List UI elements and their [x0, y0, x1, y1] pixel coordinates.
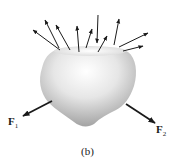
force-label-f2: F2: [156, 123, 166, 138]
traction-arrow-icon: [123, 46, 143, 51]
force-arrow-icon: [23, 101, 52, 116]
traction-arrow-icon: [97, 15, 98, 43]
traction-arrow-icon: [86, 29, 92, 48]
traction-arrow-icon: [33, 30, 60, 50]
force-arrow-icon: [126, 104, 155, 123]
traction-arrow-icon: [114, 19, 119, 45]
figure-caption: (b): [81, 145, 94, 157]
free-body-diagram: [0, 0, 177, 168]
cut-surface: [54, 46, 126, 56]
force-label-f1: F1: [8, 115, 18, 130]
deformable-body: [40, 48, 136, 127]
traction-arrow-icon: [119, 33, 148, 47]
